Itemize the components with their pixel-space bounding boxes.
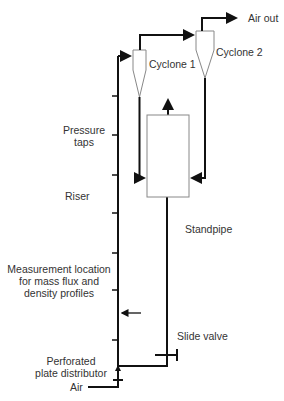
- measurement-location-label: Measurement location for mass flux and d…: [4, 263, 114, 299]
- cyclone-1: [133, 50, 146, 97]
- cyclone1-dipleg: [140, 97, 145, 178]
- distributor-label: Perforated plate distributor: [30, 355, 112, 379]
- cyclone-2: [196, 31, 214, 78]
- pressure-taps-label: Pressure taps: [58, 124, 110, 148]
- air-label: Air: [70, 381, 83, 393]
- riser: [118, 56, 130, 388]
- cyclone1-gas-outlet: [140, 35, 193, 50]
- air-out-line: [202, 18, 236, 31]
- cyclone2-dipleg: [192, 78, 205, 178]
- air-out-label: Air out: [248, 12, 278, 24]
- standpipe-label: Standpipe: [185, 223, 232, 235]
- cfb-schematic: [0, 0, 284, 401]
- cyclone2-label: Cyclone 2: [216, 46, 263, 58]
- standpipe-line: [118, 197, 167, 366]
- riser-label: Riser: [65, 190, 90, 202]
- slide-valve-label: Slide valve: [177, 330, 228, 342]
- standpipe-vessel: [147, 115, 189, 197]
- cyclone1-label: Cyclone 1: [149, 58, 196, 70]
